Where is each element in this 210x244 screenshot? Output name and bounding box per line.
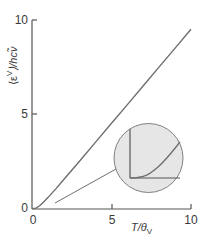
inset-connector-line [55,169,116,203]
y-tick-label-0: 0 [21,201,28,215]
inset-circle [114,124,183,193]
y-tick-label-10: 10 [15,13,29,27]
x-tick-label-5: 5 [109,213,116,227]
y-tick-label-5: 5 [21,107,28,121]
x-axis-label-sub: V [147,227,153,236]
x-axis-label-main: T/θ [131,221,147,233]
y-axis-label-rest: ⟩/hcν̃ [7,46,19,71]
y-axis-label: ⟨εV⟩/hcν̃ [5,46,19,85]
y-axis-label-main: ⟨ε [7,76,19,85]
x-tick-label-10: 10 [184,213,198,227]
chart-figure: 10 5 0 0 5 10 T/θV ⟨εV⟩/hcν̃ [0,0,210,244]
x-tick-label-0: 0 [30,213,37,227]
x-axis-label: T/θV [131,221,153,236]
inset-magnifier [114,124,183,193]
